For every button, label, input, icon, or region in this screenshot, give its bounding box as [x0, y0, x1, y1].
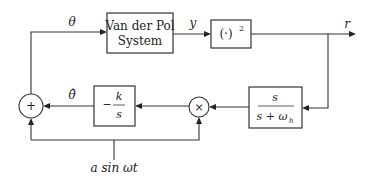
- integrator-denominator: s: [116, 108, 122, 121]
- block-diagram: Van der Pol System (·) 2 s s + ω h − k s…: [0, 0, 369, 180]
- arrow-into-square: [204, 31, 211, 37]
- square-label: (·): [219, 27, 232, 41]
- summer-symbol: +: [26, 99, 36, 113]
- integrator-sign: −: [102, 98, 111, 111]
- multiplier-node: ×: [189, 97, 209, 117]
- arrow-into-summer: [43, 103, 50, 109]
- theta-label: θ: [68, 15, 76, 29]
- multiplier-symbol: ×: [194, 101, 203, 114]
- highpass-numerator: s: [272, 91, 278, 104]
- square-exponent: 2: [239, 24, 244, 33]
- dither-label: a sin ωt: [90, 161, 137, 175]
- integrator-block: − k s: [94, 86, 135, 126]
- arrow-dither-into-multiplier: [196, 117, 202, 124]
- plant-label-line1: Van der Pol: [104, 19, 174, 33]
- arrow-dither-into-summer: [28, 118, 34, 125]
- van-der-pol-block: Van der Pol System: [104, 13, 174, 53]
- wire-r-feedback: [305, 34, 328, 108]
- arrow-into-integrator: [135, 103, 142, 109]
- square-block: (·) 2: [211, 20, 251, 48]
- plant-label-line2: System: [118, 34, 163, 48]
- arrow-into-multiplier: [209, 104, 216, 110]
- r-label: r: [344, 17, 351, 31]
- integrator-numerator: k: [116, 90, 123, 103]
- summing-node: +: [19, 94, 43, 118]
- y-label: y: [189, 16, 197, 30]
- arrow-into-highpass: [302, 105, 309, 111]
- highpass-filter-block: s s + ω h: [249, 87, 302, 128]
- theta-hat-label: θ̂: [68, 88, 76, 102]
- wire-theta: [31, 32, 104, 94]
- arrow-output-r: [349, 31, 356, 37]
- highpass-denominator: s + ω: [257, 110, 288, 123]
- highpass-subscript: h: [289, 117, 294, 125]
